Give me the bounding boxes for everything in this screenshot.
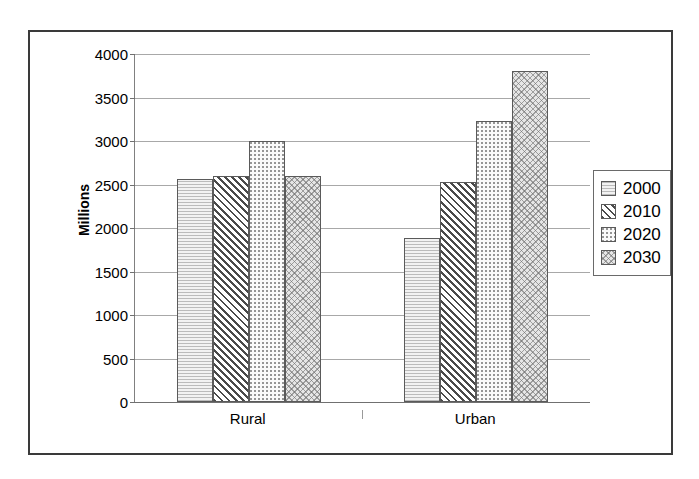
legend-item-2030: 2030 [601,246,661,269]
x-axis-label-rural: Rural [230,410,266,427]
y-axis-tick-label: 500 [68,350,128,367]
bar-rural-2020 [249,141,285,402]
bar-urban-2000 [404,238,440,402]
chart-legend: 2000201020202030 [593,170,671,276]
legend-swatch-2020 [601,227,616,242]
bar-rural-2010 [213,176,249,402]
bar-group-rural [177,54,321,402]
category-divider-tick [362,410,363,419]
y-axis-tick-label: 2500 [68,176,128,193]
y-axis-tick-label: 3500 [68,89,128,106]
bar-rural-2030 [285,176,321,402]
y-axis-tick-label: 1000 [68,307,128,324]
bar-group-urban [404,54,548,402]
bar-rural-2000 [177,179,213,402]
y-axis-tick-label: 4000 [68,46,128,63]
x-axis-label-urban: Urban [455,410,496,427]
y-axis-tick-mark [130,402,135,403]
legend-swatch-2000 [601,181,616,196]
y-axis-tick-label: 2000 [68,220,128,237]
y-axis-tick-label: 1500 [68,263,128,280]
x-axis-category-labels: RuralUrban [134,410,589,434]
legend-label-2030: 2030 [623,249,661,266]
legend-item-2020: 2020 [601,223,661,246]
plot-area [134,54,590,403]
bars-layer [135,54,590,402]
y-axis-tick-label: 0 [68,394,128,411]
y-axis-tick-label: 3000 [68,133,128,150]
bar-urban-2030 [512,71,548,402]
chart-frame: Millions 0500100015002000250030003500400… [28,30,673,455]
legend-swatch-2030 [601,250,616,265]
chart-plot-wrapper: Millions 0500100015002000250030003500400… [30,32,671,453]
bar-urban-2010 [440,182,476,402]
bar-urban-2020 [476,121,512,402]
legend-swatch-2010 [601,204,616,219]
legend-label-2000: 2000 [623,180,661,197]
y-axis-tick-labels: 05001000150020002500300035004000 [68,54,128,402]
legend-item-2000: 2000 [601,177,661,200]
legend-label-2010: 2010 [623,203,661,220]
legend-item-2010: 2010 [601,200,661,223]
legend-label-2020: 2020 [623,226,661,243]
